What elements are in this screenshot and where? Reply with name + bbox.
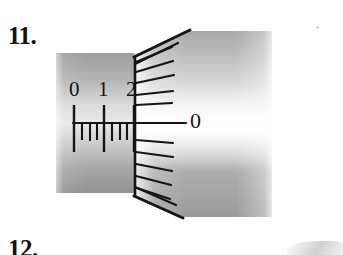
sleeve-numeral-1: 1 [98, 79, 109, 100]
sleeve-numeral-0: 0 [69, 79, 80, 100]
problem-number-12: 12. [8, 236, 38, 255]
scan-artifact-speck [316, 26, 319, 29]
thimble-numeral-0: 0 [190, 110, 201, 132]
micrometer-diagram [0, 0, 343, 255]
micrometer-svg [0, 0, 343, 255]
sleeve-numeral-2: 2 [126, 79, 137, 100]
scan-artifact-smudge [287, 241, 343, 255]
figure-page: 11. [0, 0, 343, 255]
